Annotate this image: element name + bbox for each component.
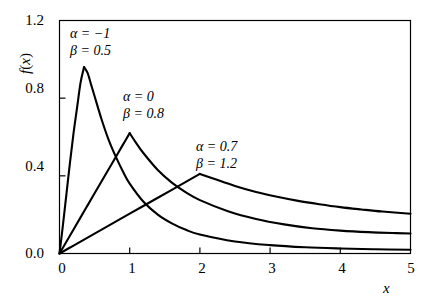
y-axis-title-fn: f (17, 70, 33, 74)
x-tick-label-3: 3 (257, 261, 287, 276)
x-tick-label-1: 1 (117, 261, 147, 276)
x-tick-label-5: 5 (396, 261, 426, 276)
annotation-curve-2-beta: β = 0.8 (123, 105, 164, 122)
plot-frame (60, 21, 411, 254)
annotation-curve-3-alpha: α = 0.7 (196, 138, 237, 155)
y-axis-title: f(x) (17, 29, 34, 99)
x-tick-label-4: 4 (327, 261, 357, 276)
annotation-curve-1-beta: β = 0.5 (70, 42, 111, 59)
x-tick-label-0: 0 (47, 261, 77, 276)
annotation-curve-3-beta: β = 1.2 (196, 155, 237, 172)
x-axis-title: x (383, 280, 390, 297)
y-tick-label-1_2: 1.2 (0, 13, 44, 28)
annotation-curve-2: α = 0 β = 0.8 (123, 88, 164, 122)
figure-container: 1.2 0.8 0.4 0.0 0 1 2 3 4 5 f(x) x α = −… (0, 0, 428, 307)
y-axis-title-close-paren: ) (17, 53, 33, 58)
annotation-curve-2-alpha: α = 0 (123, 88, 164, 105)
x-tick-label-2: 2 (187, 261, 217, 276)
annotation-curve-3: α = 0.7 β = 1.2 (196, 138, 237, 172)
annotation-curve-1: α = −1 β = 0.5 (70, 25, 111, 59)
y-axis-title-open-paren: ( (17, 65, 33, 70)
y-axis-title-var: x (17, 58, 33, 65)
y-tick-label-0_4: 0.4 (0, 159, 44, 174)
y-tick-label-0_0: 0.0 (0, 246, 44, 261)
annotation-curve-1-alpha: α = −1 (70, 25, 111, 42)
